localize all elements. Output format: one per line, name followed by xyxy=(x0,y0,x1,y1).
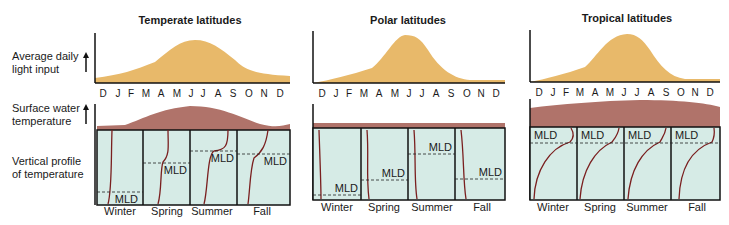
svg-text:Fall: Fall xyxy=(253,205,271,217)
mld-label: MLD xyxy=(675,129,698,141)
svg-text:Winter: Winter xyxy=(537,201,569,213)
mld-label: MLD xyxy=(264,155,287,167)
svg-text:J: J xyxy=(334,88,339,99)
svg-text:M: M xyxy=(576,87,584,98)
season-axis: WinterSpring SummerFall xyxy=(537,201,706,213)
season-axis: WinterSpring SummerFall xyxy=(104,205,271,217)
light-curve-tropical xyxy=(530,34,720,82)
panel-temperate: Temperate latitudes DJF MAM JJA SON D ML… xyxy=(95,14,290,217)
row-label-surface-2: temperature xyxy=(12,115,71,127)
svg-text:O: O xyxy=(245,88,253,99)
svg-text:O: O xyxy=(677,87,685,98)
svg-text:J: J xyxy=(116,88,121,99)
row-label-light-2: light input xyxy=(12,63,59,75)
mld-label: MLD xyxy=(115,193,138,205)
panel-title: Tropical latitudes xyxy=(582,12,672,24)
month-axis: DJF MAM JJA SON D xyxy=(99,88,283,99)
mld-label: MLD xyxy=(429,141,452,153)
arrow-up-icon xyxy=(83,104,89,124)
svg-text:F: F xyxy=(128,88,134,99)
svg-text:Summer: Summer xyxy=(626,201,668,213)
row-label-light-1: Average daily xyxy=(12,50,79,62)
diagram-canvas: Average daily light input Surface water … xyxy=(0,0,729,225)
mld-label: MLD xyxy=(479,166,502,178)
svg-text:D: D xyxy=(535,87,542,98)
svg-text:Fall: Fall xyxy=(688,201,706,213)
svg-text:J: J xyxy=(635,87,640,98)
svg-text:M: M xyxy=(142,88,150,99)
svg-text:J: J xyxy=(551,87,556,98)
svg-text:Spring: Spring xyxy=(368,201,400,213)
svg-text:D: D xyxy=(99,88,106,99)
svg-text:S: S xyxy=(663,87,670,98)
svg-text:S: S xyxy=(230,88,237,99)
svg-text:Summer: Summer xyxy=(191,205,233,217)
svg-text:A: A xyxy=(592,87,599,98)
svg-text:Winter: Winter xyxy=(321,201,353,213)
svg-text:D: D xyxy=(318,88,325,99)
mld-label: MLD xyxy=(534,129,557,141)
svg-text:D: D xyxy=(276,88,283,99)
surface-temp-temperate xyxy=(97,106,290,130)
svg-text:O: O xyxy=(463,88,471,99)
svg-text:J: J xyxy=(189,88,194,99)
svg-text:S: S xyxy=(448,88,455,99)
svg-text:Spring: Spring xyxy=(584,201,616,213)
svg-text:J: J xyxy=(622,87,627,98)
month-axis: DJF MAM JJA SON D xyxy=(535,87,713,98)
svg-text:M: M xyxy=(606,87,614,98)
panel-title: Polar latitudes xyxy=(370,14,446,26)
light-curve-polar xyxy=(313,35,505,83)
row-label-profile-2: of temperature xyxy=(12,168,84,180)
svg-text:A: A xyxy=(158,88,165,99)
surface-temp-tropical xyxy=(530,100,720,127)
svg-text:F: F xyxy=(563,87,569,98)
svg-text:Fall: Fall xyxy=(473,201,491,213)
svg-text:N: N xyxy=(691,87,698,98)
svg-text:J: J xyxy=(420,88,425,99)
panel-title: Temperate latitudes xyxy=(138,14,241,26)
svg-text:Summer: Summer xyxy=(411,201,453,213)
mld-label: MLD xyxy=(581,129,604,141)
light-curve-temperate xyxy=(95,40,290,83)
svg-text:M: M xyxy=(173,88,181,99)
row-label-profile-1: Vertical profile xyxy=(12,155,81,167)
mld-label: MLD xyxy=(335,182,358,194)
panel-tropical: Tropical latitudes DJF MAM JJA SON D MLD… xyxy=(530,12,720,213)
mld-label: MLD xyxy=(628,129,651,141)
svg-text:M: M xyxy=(391,88,399,99)
svg-text:A: A xyxy=(648,87,655,98)
season-axis: WinterSpring SummerFall xyxy=(321,201,491,213)
svg-text:D: D xyxy=(706,87,713,98)
svg-text:Winter: Winter xyxy=(104,205,136,217)
mld-label: MLD xyxy=(211,152,234,164)
svg-text:J: J xyxy=(201,88,206,99)
svg-text:A: A xyxy=(433,88,440,99)
svg-text:N: N xyxy=(477,88,484,99)
svg-text:J: J xyxy=(407,88,412,99)
svg-text:M: M xyxy=(360,88,368,99)
mld-label: MLD xyxy=(164,164,187,176)
arrow-up-icon xyxy=(83,52,89,72)
panel-polar: Polar latitudes DJF MAM JJA SON D MLD ML… xyxy=(313,14,505,213)
svg-text:N: N xyxy=(260,88,267,99)
svg-text:A: A xyxy=(376,88,383,99)
month-axis: DJF MAM JJA SON D xyxy=(318,88,499,99)
svg-text:F: F xyxy=(346,88,352,99)
svg-text:A: A xyxy=(215,88,222,99)
svg-text:D: D xyxy=(492,88,499,99)
mld-label: MLD xyxy=(382,167,405,179)
svg-text:Spring: Spring xyxy=(151,205,183,217)
row-label-surface-1: Surface water xyxy=(12,102,80,114)
